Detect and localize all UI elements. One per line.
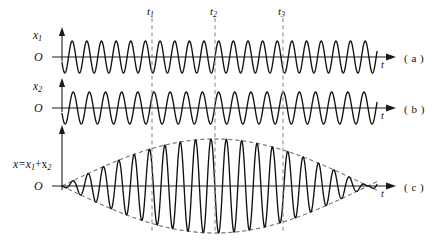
waveform-canvas	[0, 0, 443, 246]
time-axis-label-c: t	[381, 189, 384, 200]
time-axis-arrow-b	[386, 105, 396, 112]
marker-label-t2: t2	[210, 6, 217, 19]
panel-a	[52, 27, 396, 73]
origin-label-a: O	[34, 51, 43, 63]
panel-label-b: ( b )	[404, 104, 425, 115]
panel-label-a: ( a )	[404, 53, 424, 64]
panel-c	[52, 125, 396, 233]
origin-label-c: O	[34, 180, 43, 192]
panel-label-c: ( c )	[404, 182, 424, 193]
envelope-upper	[62, 139, 377, 186]
time-axis-arrow-c	[386, 183, 396, 190]
marker-label-t1: t1	[147, 6, 154, 19]
value-axis-arrow-a	[59, 27, 65, 36]
panel-b	[52, 78, 396, 124]
axis-label-x1: x1	[33, 30, 42, 44]
time-axis-arrow-a	[386, 54, 396, 61]
beats-figure: x1 O t ( a ) x2 O t ( b ) x=x1+x2 O t ( …	[0, 0, 443, 246]
value-axis-arrow-c	[59, 125, 65, 134]
origin-label-b: O	[34, 102, 43, 114]
marker-label-t3: t3	[278, 6, 285, 19]
value-axis-arrow-b	[59, 78, 65, 87]
time-axis-label-a: t	[381, 60, 384, 71]
axis-label-x2: x2	[33, 81, 42, 95]
time-axis-label-b: t	[381, 111, 384, 122]
axis-label-x-sum: x=x1+x2	[13, 159, 52, 173]
